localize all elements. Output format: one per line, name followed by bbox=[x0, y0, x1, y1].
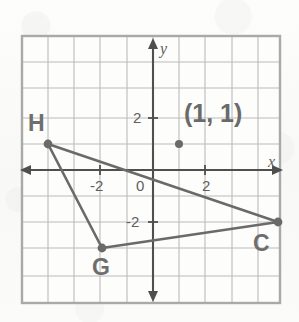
plotted-point-dot bbox=[175, 140, 183, 148]
vertex-label-c: C bbox=[253, 232, 270, 255]
y-tick-label-neg2: -2 bbox=[126, 214, 139, 229]
vertex-label-h: H bbox=[28, 112, 45, 135]
x-tick-label-neg2: -2 bbox=[90, 178, 103, 193]
vertex-c-dot bbox=[274, 218, 283, 227]
coordinate-plane bbox=[0, 0, 299, 322]
y-tick-label-pos2: 2 bbox=[133, 110, 141, 125]
coordinate-annotation: (1, 1) bbox=[184, 101, 242, 126]
x-axis-label: x bbox=[268, 154, 275, 170]
vertex-g-dot bbox=[98, 244, 107, 253]
x-tick-label-pos2: 2 bbox=[202, 178, 210, 193]
y-axis-label: y bbox=[160, 41, 167, 57]
origin-label: 0 bbox=[136, 178, 144, 193]
vertex-label-g: G bbox=[92, 256, 110, 279]
figure-canvas: H G C -2 2 0 2 -2 x y (1, 1) bbox=[0, 0, 299, 322]
vertex-h-dot bbox=[44, 140, 53, 149]
